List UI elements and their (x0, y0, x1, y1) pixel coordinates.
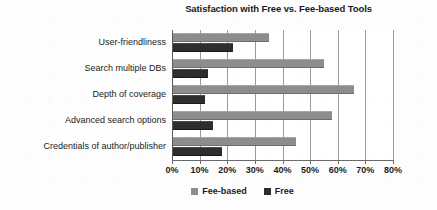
category-label: User-friendliness (0, 37, 166, 47)
value-axis-line (172, 30, 173, 161)
tick-mark-50 (310, 160, 311, 164)
chart-figure: Satisfaction with Free vs. Fee-based Too… (0, 0, 437, 210)
tick-mark-70 (365, 160, 366, 164)
gridline-60 (338, 30, 339, 160)
bar-free (172, 69, 208, 78)
gridline-80 (393, 30, 394, 160)
tick-mark-40 (283, 160, 284, 164)
legend-item-fee[interactable]: Fee-based (191, 186, 247, 196)
plot-area (172, 30, 393, 160)
tick-mark-10 (200, 160, 201, 164)
bar-fee-based (172, 111, 332, 120)
bar-fee-based (172, 85, 354, 94)
category-label: Credentials of author/publisher (0, 141, 166, 151)
bar-fee-based (172, 33, 269, 42)
bar-free (172, 147, 222, 156)
bar-fee-based (172, 59, 324, 68)
legend-item-free[interactable]: Free (264, 186, 294, 196)
legend-label: Free (275, 186, 294, 196)
category-axis-labels: User-friendlinessSearch multiple DBsDept… (0, 30, 172, 160)
chart-title: Satisfaction with Free vs. Fee-based Too… (0, 3, 437, 14)
tick-label-80: 80% (375, 165, 411, 175)
category-label: Advanced search options (0, 115, 166, 125)
gridline-50 (310, 30, 311, 160)
category-label: Search multiple DBs (0, 63, 166, 73)
legend-label: Fee-based (202, 186, 247, 196)
legend-swatch-icon (191, 188, 198, 195)
tick-mark-20 (227, 160, 228, 164)
gridline-70 (365, 30, 366, 160)
tick-mark-30 (255, 160, 256, 164)
tick-mark-0 (172, 160, 173, 164)
legend-swatch-icon (264, 188, 271, 195)
category-label: Depth of coverage (0, 89, 166, 99)
tick-mark-60 (338, 160, 339, 164)
chart-legend: Fee-basedFree (0, 186, 437, 196)
bar-free (172, 95, 205, 104)
tick-mark-80 (393, 160, 394, 164)
bar-free (172, 43, 233, 52)
bar-free (172, 121, 213, 130)
bar-fee-based (172, 137, 296, 146)
